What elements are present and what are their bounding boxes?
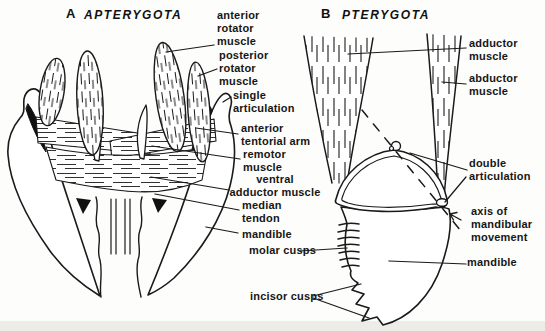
label-ventral-adductor-muscle: ventral adductor muscle bbox=[229, 173, 321, 199]
label-molar-cusps: molar cusps bbox=[249, 244, 316, 257]
panel-a-drawing bbox=[8, 41, 235, 297]
panel-a-letter: A bbox=[66, 6, 75, 21]
posterior-rotator-muscle-right bbox=[185, 61, 214, 162]
label-mandible-b: mandible bbox=[467, 256, 517, 269]
panel-b-title: PTERYGOTA bbox=[342, 8, 430, 22]
panel-a-title: APTERYGOTA bbox=[84, 8, 182, 22]
panel-b-drawing bbox=[304, 34, 461, 325]
label-remotor-muscle: remotor muscle bbox=[243, 148, 286, 174]
label-posterior-rotator-muscle: posterior rotator muscle bbox=[219, 49, 268, 87]
sclerite-bit-left bbox=[76, 198, 91, 214]
label-adductor-muscle: adductor muscle bbox=[469, 37, 518, 63]
median-tendon-structure bbox=[96, 197, 142, 297]
posterior-articulation-knob bbox=[437, 199, 448, 207]
label-single-articulation: single articulation bbox=[233, 89, 295, 115]
panel-b-letter: B bbox=[321, 6, 330, 21]
axis-arrow bbox=[450, 213, 461, 221]
leader-double-articulation-lower bbox=[445, 177, 466, 202]
sclerite-bit-right bbox=[152, 198, 167, 213]
figure-mandible-comparison: A APTERYGOTA B PTERYGOTA anterior rotato… bbox=[0, 0, 545, 331]
label-axis-of-mandibular-movement: axis of mandibular movement bbox=[471, 205, 532, 243]
anterior-articulation-knob bbox=[390, 142, 401, 151]
anterior-rotator-muscle-left bbox=[35, 57, 69, 128]
label-abductor-muscle: abductor muscle bbox=[469, 72, 518, 98]
label-median-tendon: median tendon bbox=[242, 199, 282, 225]
label-mandible-a: mandible bbox=[242, 228, 292, 241]
scan-smudge bbox=[0, 321, 545, 331]
label-anterior-rotator-muscle: anterior rotator muscle bbox=[217, 9, 260, 47]
label-anterior-tentorial-arm: anterior tentorial arm bbox=[241, 122, 310, 148]
leader-anterior-rotator bbox=[166, 45, 214, 52]
label-double-articulation: double articulation bbox=[469, 157, 531, 183]
label-incisor-cusps: incisor cusps bbox=[250, 290, 324, 303]
